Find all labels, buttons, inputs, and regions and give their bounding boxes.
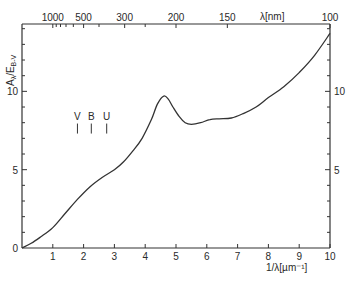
top-tick-label: 300 [116, 12, 133, 23]
x-tick-label: 8 [266, 251, 272, 262]
right-y-axis-ticks: 510 [325, 29, 346, 233]
x-tick-label: 7 [235, 251, 241, 262]
band-label-v: V [74, 111, 81, 122]
y-tick-label: 5 [12, 165, 18, 176]
x-tick-label: 5 [173, 251, 179, 262]
top-tick-label: 1000 [42, 12, 65, 23]
x-tick-label: 1 [50, 251, 56, 262]
photometric-band-markers: VBU [74, 111, 110, 134]
x-tick-label: 9 [296, 251, 302, 262]
x-tick-label: 2 [81, 251, 87, 262]
top-tick-label: 100 [322, 12, 339, 23]
right-y-tick-label: 10 [334, 86, 346, 97]
x-tick-label: 4 [142, 251, 148, 262]
plot-frame [22, 24, 330, 248]
band-label-b: B [88, 111, 95, 122]
band-label-u: U [103, 111, 110, 122]
x-axis-ticks: 12345678910 [50, 244, 336, 262]
y-tick-label: 10 [7, 86, 19, 97]
extinction-chart: 12345678910 0510 510 1000500300200150100… [0, 0, 348, 282]
top-tick-label: 500 [75, 12, 92, 23]
x-tick-label: 3 [112, 251, 118, 262]
x-axis-label: 1/λ[µm⁻¹] [266, 262, 308, 273]
top-axis-label: λ[nm] [260, 11, 285, 22]
extinction-curve [22, 33, 330, 248]
x-tick-label: 10 [324, 251, 336, 262]
y-axis-label: Aλ/EB-V [5, 54, 17, 86]
top-tick-label: 150 [219, 12, 236, 23]
top-wavelength-axis-ticks: 1000500300200150100 [42, 12, 339, 28]
top-tick-label: 200 [168, 12, 185, 23]
right-y-tick-label: 5 [334, 165, 340, 176]
x-tick-label: 6 [204, 251, 210, 262]
y-tick-label: 0 [12, 243, 18, 254]
